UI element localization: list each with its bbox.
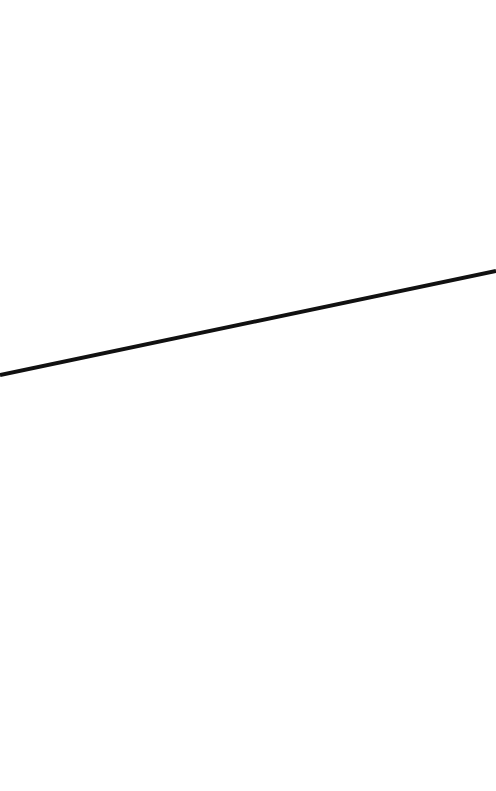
drawing-surface <box>0 0 496 791</box>
diagonal-line <box>0 271 496 375</box>
drawing-canvas[interactable] <box>0 0 496 791</box>
